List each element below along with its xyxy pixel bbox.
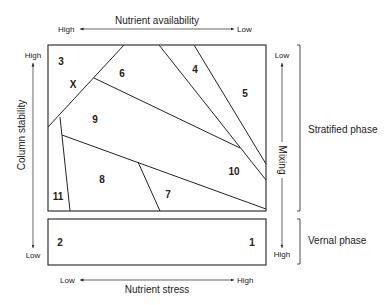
- region-10: 10: [228, 166, 240, 177]
- right-axis-bottom-label: High: [274, 250, 290, 259]
- region-11: 11: [53, 191, 64, 202]
- vernal-bracket: [297, 219, 300, 264]
- region-x: X: [70, 79, 77, 90]
- vernal-phase-label: Vernal phase: [308, 235, 367, 246]
- region-4: 4: [192, 64, 198, 75]
- top-axis-right-label: Low: [237, 25, 252, 34]
- top-axis-left-label: High: [58, 25, 74, 34]
- left-axis-top-label: High: [25, 51, 41, 60]
- region-1: 1: [249, 237, 255, 248]
- boundary-6-9: [94, 78, 240, 148]
- right-axis-top-label: Low: [275, 51, 290, 60]
- bottom-axis-left-label: Low: [60, 276, 75, 285]
- right-axis-title: Mixing: [277, 146, 288, 175]
- stratified-phase-label: Stratified phase: [308, 124, 378, 135]
- region-5: 5: [242, 88, 248, 99]
- region-6: 6: [119, 68, 125, 79]
- boundary-6-4: [159, 45, 266, 180]
- region-9: 9: [92, 114, 98, 125]
- stratified-bracket: [297, 45, 300, 211]
- vernal-box: [48, 219, 266, 265]
- stratified-box: [48, 45, 266, 211]
- boundary-4-5: [194, 45, 266, 164]
- region-3: 3: [58, 56, 64, 67]
- left-axis-title: Column stability: [16, 100, 27, 171]
- phytoplankton-habitat-diagram: Nutrient availability High Low High Low …: [0, 0, 391, 305]
- top-axis-title: Nutrient availability: [115, 15, 199, 26]
- bottom-axis-right-label: High: [237, 276, 253, 285]
- region-2: 2: [57, 237, 63, 248]
- region-8: 8: [99, 174, 105, 185]
- region-7: 7: [165, 189, 171, 200]
- left-axis-bottom-label: Low: [26, 251, 41, 260]
- bottom-axis-title: Nutrient stress: [125, 284, 189, 295]
